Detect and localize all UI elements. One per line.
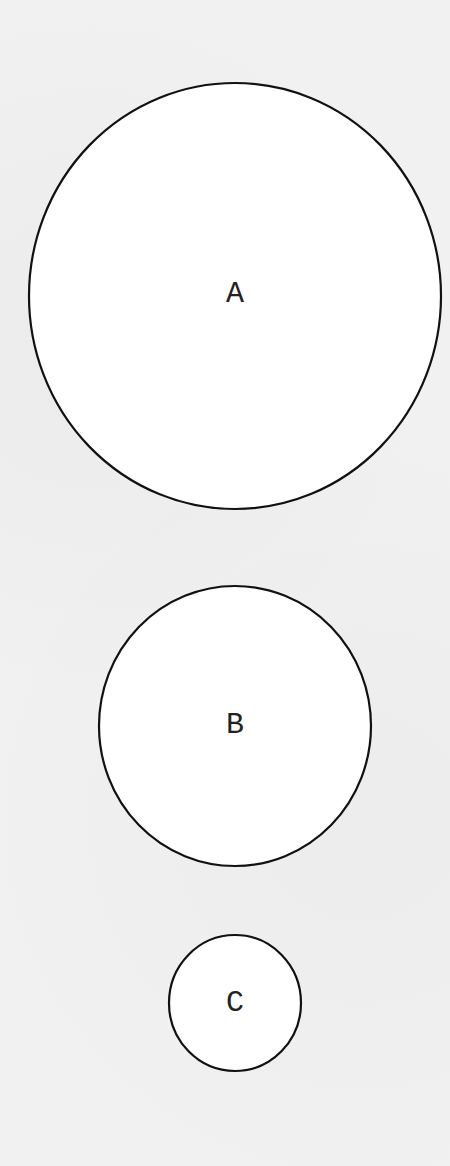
circle-c: C xyxy=(169,935,301,1071)
circles-diagram: A B C xyxy=(0,0,450,1166)
circle-a: A xyxy=(29,83,441,509)
circle-c-label: C xyxy=(226,986,244,1020)
circle-b-label: B xyxy=(226,708,244,742)
circle-b: B xyxy=(99,586,371,866)
circle-a-label: A xyxy=(226,277,244,311)
